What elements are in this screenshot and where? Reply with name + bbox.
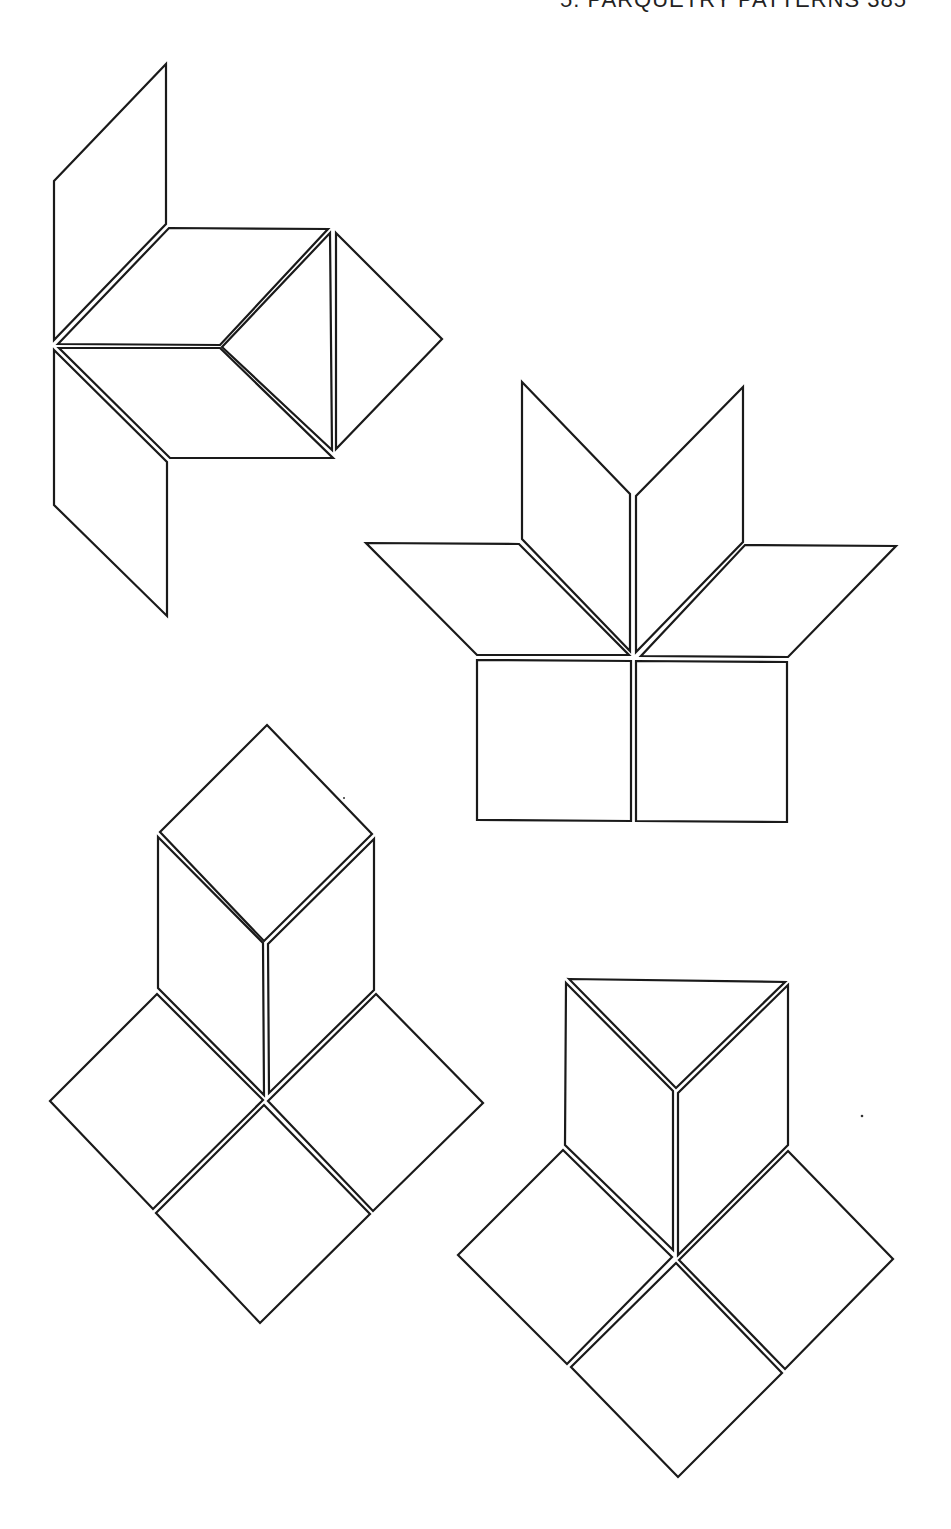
square-piece <box>477 660 631 821</box>
parquetry-figures <box>0 0 951 1529</box>
figure-1-rhombus-triangle-cluster <box>54 64 442 616</box>
print-speck <box>861 1115 864 1118</box>
figure-2-flower-on-squares <box>366 382 896 822</box>
print-speck <box>343 797 345 799</box>
page: 5. PARQUETRY PATTERNS 385 <box>0 0 951 1529</box>
triangle-piece <box>336 233 442 449</box>
figure-4-triangle-cube-on-squares <box>458 979 893 1477</box>
square-piece <box>636 661 787 822</box>
figure-3-cube-on-squares <box>50 725 483 1323</box>
